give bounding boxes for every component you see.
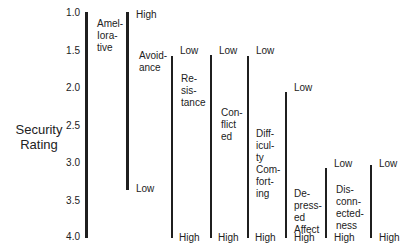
end-high-disconnectedness: High: [334, 232, 355, 243]
end-high-depressed-affect: High: [294, 232, 315, 243]
end-low-ameliorative: Low: [136, 183, 154, 194]
label-resistance: Re- sis- tance: [181, 73, 205, 109]
label-ameliorative: Amel- Iora- tive: [97, 18, 123, 54]
end-low-disconnectedness: Low: [334, 158, 352, 169]
range-line-depressed-affect: [285, 92, 287, 238]
end-high-conflicted: High: [218, 232, 239, 243]
end-high-last: High: [379, 232, 400, 243]
end-low-resistance: Low: [180, 45, 198, 56]
label-difficulty-comforting: Diff- icul- ty Com- fort- ing: [256, 128, 280, 200]
end-low-difficulty-comforting: Low: [256, 45, 274, 56]
range-line-last: [370, 165, 372, 238]
end-high-difficulty-comforting: High: [255, 232, 276, 243]
y-axis-title-line2: Rating: [4, 137, 74, 152]
label-avoidance: Avoid- ance: [139, 50, 167, 74]
y-tick-4-0: 4.0: [58, 231, 80, 242]
end-low-conflicted: Low: [219, 45, 237, 56]
y-tick-1-5: 1.5: [58, 45, 80, 56]
y-tick-2-5: 2.5: [58, 120, 80, 131]
y-tick-1-0: 1.0: [58, 7, 80, 18]
y-tick-3-0: 3.0: [58, 157, 80, 168]
y-axis-line: [85, 12, 88, 238]
label-depressed-affect: De- press- ed Affect: [294, 188, 322, 236]
label-conflicted: Con- flict ed: [221, 107, 243, 143]
range-line-ameliorative: [126, 12, 129, 190]
y-tick-2-0: 2.0: [58, 82, 80, 93]
range-line-conflicted: [210, 55, 212, 238]
range-line-resistance: [171, 56, 173, 238]
range-line-disconnectedness: [325, 168, 327, 238]
end-low-last: Low: [379, 158, 397, 169]
end-low-depressed-affect: Low: [294, 82, 312, 93]
y-tick-3-5: 3.5: [58, 195, 80, 206]
label-disconnectedness: Dis- conn- ected- ness: [336, 184, 364, 232]
range-line-difficulty-comforting: [247, 56, 249, 238]
end-high-resistance: High: [179, 232, 200, 243]
end-high-ameliorative: High: [136, 9, 157, 20]
